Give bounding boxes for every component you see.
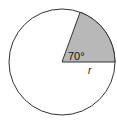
- angle-label: 70°: [68, 50, 85, 62]
- circle-diagram: 70° r: [0, 0, 117, 125]
